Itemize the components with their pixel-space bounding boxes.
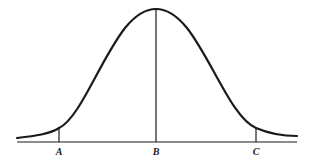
marker-b-label: B bbox=[152, 146, 160, 157]
bell-curve-diagram: A B C bbox=[0, 0, 312, 162]
marker-a-label: A bbox=[55, 146, 63, 157]
bell-curve bbox=[17, 9, 297, 138]
marker-c-label: C bbox=[253, 146, 260, 157]
